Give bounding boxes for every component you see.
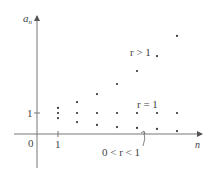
data-point (156, 55, 158, 57)
x-axis-label: n (195, 139, 200, 150)
data-point (76, 121, 78, 123)
data-point (176, 112, 178, 114)
data-point (136, 112, 138, 114)
x-tick-label: 1 (55, 138, 61, 150)
data-point (156, 128, 158, 130)
data-point (136, 127, 138, 129)
y-tick-label: 1 (27, 107, 33, 119)
data-point (176, 130, 178, 132)
data-point (96, 93, 98, 95)
data-point (116, 112, 118, 114)
data-point (76, 112, 78, 114)
data-point (57, 117, 59, 119)
data-point (156, 112, 158, 114)
origin-label: 0 (28, 137, 34, 149)
data-point (116, 126, 118, 128)
y-axis-label: an (23, 12, 33, 26)
sequence-plot: an n 0 1 1 r > 1 r = 1 0 < r < 1 (0, 0, 215, 179)
data-points (57, 35, 178, 132)
data-point (116, 83, 118, 85)
data-point (76, 101, 78, 103)
data-point (176, 35, 178, 37)
annotation-r-between: 0 < r < 1 (102, 146, 140, 158)
annotation-r-gt-1: r > 1 (130, 46, 151, 58)
data-point (96, 112, 98, 114)
data-point (96, 124, 98, 126)
data-point (57, 112, 59, 114)
annotation-r-eq-1: r = 1 (137, 98, 158, 110)
data-point (57, 107, 59, 109)
data-point (136, 70, 138, 72)
